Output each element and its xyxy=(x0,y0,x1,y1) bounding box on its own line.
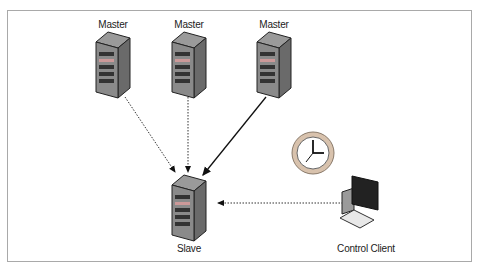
node-label-master-2: Master xyxy=(174,19,203,30)
master-server-icon-3 xyxy=(255,30,293,100)
node-label-control-client: Control Client xyxy=(337,243,395,254)
master-server-icon-2 xyxy=(170,30,208,100)
node-label-master-1: Master xyxy=(98,19,127,30)
edge-master3-slave xyxy=(203,97,266,175)
slave-server-icon xyxy=(170,173,208,243)
node-label-slave: Slave xyxy=(177,243,201,254)
connection-lines xyxy=(0,0,479,270)
node-label-master-3: Master xyxy=(259,19,288,30)
clock-icon xyxy=(290,130,336,176)
workstation-icon xyxy=(338,170,388,230)
edge-master1-slave xyxy=(125,97,175,172)
master-server-icon-1 xyxy=(94,30,132,100)
